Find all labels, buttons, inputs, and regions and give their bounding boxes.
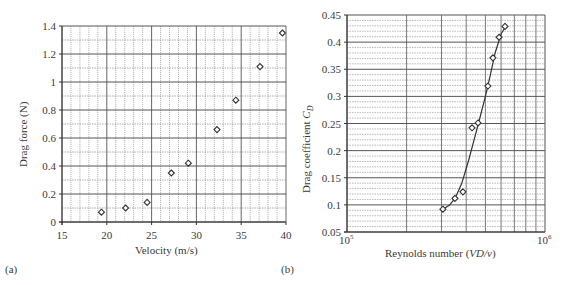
tick-base: 10 — [339, 234, 350, 246]
chart-b-x-title-suffix: ) — [492, 247, 496, 259]
y-tick-label: 0.15 — [322, 172, 342, 184]
chart-b-x-title-italic: VD/v — [469, 247, 492, 259]
data-point-marker — [475, 120, 481, 126]
fit-curve-line — [443, 25, 507, 209]
data-point-marker — [485, 83, 491, 89]
chart-b-drag-coefficient-vs-reynolds: 0.050.10.150.20.250.30.350.40.45 — [0, 0, 566, 285]
y-tick-label: 0.45 — [322, 9, 342, 21]
chart-b-y-title-prefix: Drag coefficient — [300, 119, 312, 193]
data-point-marker — [502, 23, 508, 29]
y-tick-label: 0.1 — [327, 199, 341, 211]
chart-b-grid — [347, 15, 545, 232]
tick-exponent: 6 — [548, 233, 552, 241]
chart-b-x-title-prefix: Reynolds number ( — [385, 247, 469, 259]
tick-base: 10 — [537, 234, 548, 246]
y-tick-label: 0.2 — [327, 145, 341, 157]
tick-exponent: 5 — [350, 233, 354, 241]
data-point-marker — [440, 206, 446, 212]
data-point-marker — [469, 125, 475, 131]
chart-b-y-title-italic: C — [300, 111, 312, 118]
chart-b-x-tick-min: 105 — [339, 233, 354, 246]
chart-b-fit-curve — [443, 25, 507, 209]
panel-label-a: (a) — [5, 263, 17, 275]
y-tick-label: 0.35 — [322, 63, 342, 75]
chart-b-y-axis-title: Drag coefficient CD — [300, 106, 315, 193]
chart-a-x-axis-title: Velocity (m/s) — [135, 244, 198, 256]
y-tick-label: 0.4 — [327, 36, 341, 48]
y-tick-label: 0.3 — [327, 90, 341, 102]
chart-b-x-axis-title: Reynolds number (VD/v) — [385, 247, 496, 259]
chart-a-y-axis-title: Drag force (N) — [17, 102, 29, 167]
panel-label-b: (b) — [281, 263, 294, 275]
y-tick-label: 0.25 — [322, 118, 342, 130]
chart-b-x-tick-max: 106 — [537, 233, 552, 246]
chart-b-y-title-subscript: D — [306, 106, 315, 112]
figure: 00.20.40.60.811.21.4152025303540 0.050.1… — [0, 0, 566, 285]
